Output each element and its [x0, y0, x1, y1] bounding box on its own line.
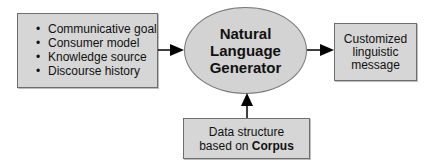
- generator-label-line-3: Generator: [210, 59, 282, 76]
- input-item-discourse-history: Discourse history: [38, 64, 157, 78]
- input-item-consumer-model: Consumer model: [38, 36, 157, 50]
- arrow-generator-to-output: [307, 44, 334, 56]
- generator-label-line-1: Natural: [210, 25, 282, 42]
- input-item-knowledge-source: Knowledge source: [38, 50, 157, 64]
- output-label-line-2: linguistic: [344, 46, 407, 59]
- arrow-corpus-to-generator: [241, 93, 253, 118]
- corpus-label-prefix: based on: [199, 139, 252, 153]
- output-label-line-1: Customized: [344, 33, 407, 46]
- inputs-list: Communicative goal Consumer model Knowle…: [18, 14, 157, 78]
- output-label: Customized linguistic message: [344, 33, 407, 72]
- corpus-label-line-1: Data structure: [209, 125, 284, 139]
- corpus-label-bold: Corpus: [252, 139, 294, 153]
- generator-label-line-2: Language: [210, 42, 282, 59]
- output-label-line-3: message: [344, 59, 407, 72]
- corpus-data-structure-box: Data structure based on Corpus: [183, 118, 310, 159]
- arrow-inputs-to-generator: [158, 44, 184, 56]
- generator-label: Natural Language Generator: [210, 25, 282, 76]
- inputs-box: Communicative goal Consumer model Knowle…: [17, 13, 158, 88]
- output-message-box: Customized linguistic message: [334, 23, 417, 81]
- corpus-label-line-2: based on Corpus: [199, 139, 294, 153]
- input-item-communicative-goal: Communicative goal: [38, 22, 157, 36]
- natural-language-generator-node: Natural Language Generator: [184, 7, 307, 94]
